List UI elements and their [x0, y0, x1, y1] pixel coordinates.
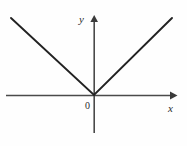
origin-label: 0	[85, 100, 90, 111]
y-axis-arrow-icon	[90, 15, 98, 22]
x-axis-arrow-icon	[170, 92, 178, 100]
figure-container: y x 0	[0, 0, 187, 146]
y-axis-label: y	[78, 13, 84, 25]
x-axis-label: x	[167, 102, 173, 114]
absolute-value-curve	[11, 18, 172, 95]
graph-plot: y x 0	[0, 0, 187, 146]
